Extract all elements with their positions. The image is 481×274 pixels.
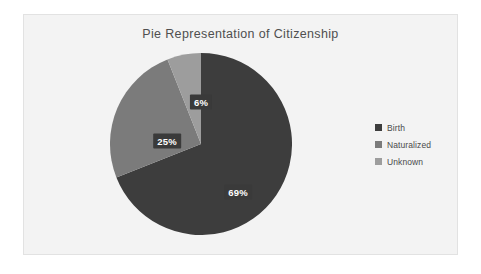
pie-svg [110,53,292,235]
chart-container: Pie Representation of Citizenship 6% 25%… [23,14,458,255]
legend-label-unknown: Unknown [387,157,423,167]
legend-label-birth: Birth [387,123,405,133]
legend-swatch-icon-birth [375,124,382,131]
legend-label-naturalized: Naturalized [387,140,431,150]
plot-area: Pie Representation of Citizenship 6% 25%… [24,15,457,254]
chart-title: Pie Representation of Citizenship [24,27,457,41]
legend-swatch-icon-unknown [375,158,382,165]
data-label-unknown: 6% [190,95,212,110]
legend-item-unknown[interactable]: Unknown [375,153,455,170]
data-label-birth: 69% [224,185,252,200]
legend-item-birth[interactable]: Birth [375,119,455,136]
legend-item-naturalized[interactable]: Naturalized [375,136,455,153]
legend: Birth Naturalized Unknown [375,119,455,170]
pie-chart: 6% 25% 69% [110,53,292,235]
data-label-naturalized: 25% [153,134,181,149]
legend-swatch-icon-naturalized [375,141,382,148]
